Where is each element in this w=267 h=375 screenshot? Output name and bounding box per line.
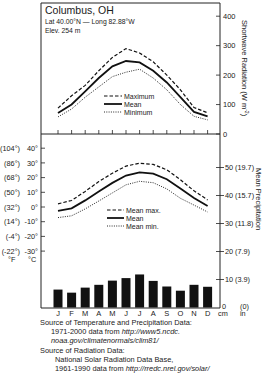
- precip-tick-in: (19.7): [235, 163, 254, 172]
- legend-minimum: Minimum: [124, 109, 153, 116]
- month-label: S: [164, 309, 169, 318]
- precip-tick-cm: 20: [225, 247, 233, 256]
- temp-precip-source-heading: Source of Temperature and Precipitation …: [40, 318, 209, 327]
- fahrenheit-tick-label: (-4°): [6, 232, 20, 241]
- precipitation-bar: [135, 274, 144, 307]
- precipitation-y-axis: 0(0)10(3.9)20(7.9)30(11.8)40(15.7)50(19.…: [216, 163, 254, 311]
- temp-precip-url-part2: noaa.gov/climatenormals/clim81/: [51, 336, 159, 345]
- unit-in: in: [240, 309, 246, 318]
- radiation-tick-label: 0: [223, 130, 227, 139]
- precipitation-bar: [122, 278, 131, 307]
- precipitation-bar: [149, 281, 158, 308]
- precip-tick-in: (11.8): [235, 219, 254, 228]
- celsius-tick-label: 40°: [27, 144, 38, 153]
- month-label: A: [96, 309, 101, 318]
- radiation-y-axis: 0100200300400: [216, 12, 236, 139]
- fahrenheit-tick-label: (104°): [0, 144, 20, 153]
- month-label: J: [138, 309, 142, 318]
- precip-tick-in: (3.9): [235, 275, 250, 284]
- radiation-tick-label: 100: [223, 100, 236, 109]
- temp-precip-source-line1: 1971-2000 data from http://www5.ncdc.: [40, 327, 209, 336]
- precipitation-bar: [190, 285, 199, 308]
- radiation-url: http://rredc.nrel.gov/solar/: [126, 364, 210, 373]
- month-label: J: [124, 309, 128, 318]
- celsius-tick-label: -10°: [25, 217, 39, 226]
- precipitation-axis-label: Mean Precipitation: [254, 168, 263, 230]
- precip-tick-in: (15.7): [235, 191, 254, 200]
- celsius-tick-label: 10°: [27, 188, 38, 197]
- source-notes: Source of Temperature and Precipitation …: [40, 318, 209, 373]
- precipitation-bar: [176, 291, 185, 308]
- temp-precip-url-part1: http://www5.ncdc.: [122, 327, 180, 336]
- fahrenheit-label: °F: [8, 255, 16, 264]
- month-label: F: [69, 309, 74, 318]
- legend-mean-min: Mean min.: [126, 223, 159, 230]
- month-label: M: [82, 309, 88, 318]
- unit-cm: cm: [218, 309, 228, 318]
- temperature-legend: Mean max. Mean Mean min.: [107, 207, 161, 230]
- month-label: A: [151, 309, 156, 318]
- fahrenheit-tick-label: (14°): [4, 217, 20, 226]
- legend-mean: Mean: [124, 101, 142, 108]
- celsius-tick-label: 30°: [27, 159, 38, 168]
- radiation-legend: Maximum Mean Minimum: [104, 93, 155, 116]
- precipitation-bar: [81, 288, 90, 308]
- radiation-tick-label: 300: [223, 41, 236, 50]
- month-labels: JFMAMJJASOND: [56, 309, 211, 318]
- station-name: Columbus, OH: [45, 4, 114, 16]
- radiation-tick-label: 400: [223, 12, 236, 21]
- precipitation-bars: [54, 274, 213, 307]
- precipitation-bar: [54, 290, 63, 308]
- celsius-label: °C: [28, 255, 36, 264]
- radiation-source-heading: Source of Radiation Data:: [40, 346, 209, 355]
- fahrenheit-tick-label: (32°): [4, 203, 20, 212]
- station-header: Columbus, OH Lat 40.00°N — Long 82.88°W …: [45, 4, 135, 34]
- celsius-tick-label: -20°: [25, 232, 39, 241]
- precip-tick-cm: 40: [225, 191, 233, 200]
- station-elevation: Elev. 254 m: [45, 27, 81, 34]
- radiation-x-ticks: [58, 130, 208, 134]
- temp-precip-source-line2: noaa.gov/climatenormals/clim81/: [40, 336, 209, 345]
- station-coords: Lat 40.00°N — Long 82.88°W: [45, 18, 135, 26]
- celsius-tick-label: 20°: [27, 173, 38, 182]
- fahrenheit-tick-label: (50°): [4, 188, 20, 197]
- legend-mean-temp: Mean: [126, 215, 144, 222]
- precipitation-bar: [67, 293, 76, 308]
- month-label: D: [205, 309, 211, 318]
- legend-mean-max: Mean max.: [126, 207, 161, 214]
- precipitation-bar: [94, 285, 103, 308]
- chart-frame: [41, 3, 220, 308]
- radiation-axis-label: Shortwave Radiation (W m-2): [240, 20, 250, 117]
- precip-tick-in: (7.9): [235, 247, 250, 256]
- fahrenheit-tick-label: (68°): [4, 173, 20, 182]
- precip-tick-cm: 50: [225, 163, 233, 172]
- precipitation-bar: [162, 287, 171, 308]
- fahrenheit-tick-label: (86°): [4, 159, 20, 168]
- radiation-tick-label: 200: [223, 71, 236, 80]
- month-label: O: [177, 309, 183, 318]
- temperature-line: [58, 172, 208, 211]
- precipitation-bar: [108, 281, 117, 308]
- month-label: M: [109, 309, 115, 318]
- month-label: N: [191, 309, 196, 318]
- precipitation-bar: [203, 287, 212, 308]
- legend-maximum: Maximum: [124, 93, 155, 100]
- month-label: J: [56, 309, 60, 318]
- precip-tick-cm: 30: [225, 219, 233, 228]
- radiation-source-line2: 1961-1990 data from http://rredc.nrel.go…: [40, 364, 209, 373]
- precip-tick-cm: 10: [225, 275, 233, 284]
- celsius-tick-label: 0°: [31, 203, 38, 212]
- temperature-y-axis: 40°(104°)30°(86°)20°(68°)10°(50°)0°(32°)…: [0, 144, 45, 256]
- radiation-source-line1: National Solar Radiation Data Base,: [40, 355, 209, 364]
